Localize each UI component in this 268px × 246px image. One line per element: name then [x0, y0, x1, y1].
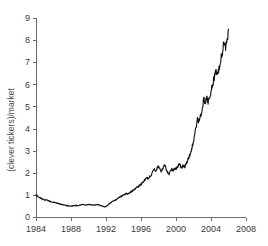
y-tick-label: 4 — [25, 124, 30, 134]
line-chart: 1984198819921996200020042008 0123456789 … — [0, 0, 268, 246]
y-tick-label: 1 — [25, 190, 30, 200]
x-tick-label: 2000 — [166, 224, 186, 234]
y-axis-title: (clever tickers)/market — [6, 88, 16, 172]
x-tick-label: 2008 — [236, 224, 256, 234]
y-tick-label: 7 — [25, 57, 30, 67]
y-tick-label: 3 — [25, 146, 30, 156]
y-tick-label: 6 — [25, 80, 30, 90]
x-tick-label: 1988 — [61, 224, 81, 234]
y-tick-label: 8 — [25, 35, 30, 45]
series-line-clever-tickers-market — [36, 29, 229, 207]
x-tick-label: 1996 — [131, 224, 151, 234]
x-tick-label: 2004 — [201, 224, 221, 234]
y-tick-label: 2 — [25, 168, 30, 178]
x-axis-tick-labels: 1984198819921996200020042008 — [26, 224, 256, 234]
chart-figure: 1984198819921996200020042008 0123456789 … — [0, 0, 268, 246]
data-series — [36, 29, 229, 207]
y-tick-label: 0 — [25, 212, 30, 222]
y-tick-label: 5 — [25, 102, 30, 112]
x-tick-label: 1992 — [96, 224, 116, 234]
tick-marks — [33, 19, 247, 222]
axes — [37, 18, 247, 218]
y-tick-label: 9 — [25, 13, 30, 23]
x-tick-label: 1984 — [26, 224, 46, 234]
y-axis-tick-labels: 0123456789 — [25, 13, 30, 222]
